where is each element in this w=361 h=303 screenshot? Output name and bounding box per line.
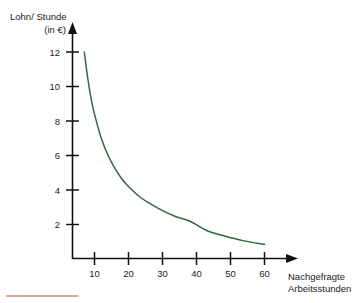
x-tick-label-60: 60 — [259, 268, 270, 279]
x-axis-title: Nachgefragte Arbeitsstunden — [288, 271, 351, 294]
y-tick-label-2: 2 — [55, 219, 60, 230]
y-axis-title: Lohn/ Stunde (in €) — [10, 11, 67, 35]
x-tick-label-50: 50 — [225, 268, 236, 279]
x-tick-label-40: 40 — [191, 268, 202, 279]
demand-curve-chart: 2 4 6 8 10 12 10 20 30 40 50 60 Lohn/ — [0, 0, 361, 303]
y-axis-arrow-icon — [68, 22, 77, 34]
chart-container: 2 4 6 8 10 12 10 20 30 40 50 60 Lohn/ — [0, 0, 361, 303]
y-tick-label-12: 12 — [49, 47, 60, 58]
x-axis-title-line1: Nachgefragte — [288, 271, 345, 282]
y-tick-label-6: 6 — [55, 150, 60, 161]
y-axis-title-line1: Lohn/ Stunde — [10, 11, 67, 22]
y-tick-label-4: 4 — [55, 185, 60, 196]
demand-curve-line — [84, 52, 264, 244]
x-axis-title-line2: Arbeitsstunden — [288, 283, 351, 294]
x-tick-label-20: 20 — [123, 268, 134, 279]
x-axis-arrow-icon — [286, 254, 298, 263]
y-axis — [68, 22, 77, 259]
y-axis-tick-labels: 2 4 6 8 10 12 — [49, 47, 60, 231]
y-tick-label-10: 10 — [49, 81, 60, 92]
x-tick-label-10: 10 — [89, 268, 100, 279]
y-axis-title-line2: (in €) — [44, 24, 66, 35]
x-axis-tick-labels: 10 20 30 40 50 60 — [89, 268, 270, 279]
x-tick-label-30: 30 — [157, 268, 168, 279]
y-tick-label-8: 8 — [55, 116, 60, 127]
